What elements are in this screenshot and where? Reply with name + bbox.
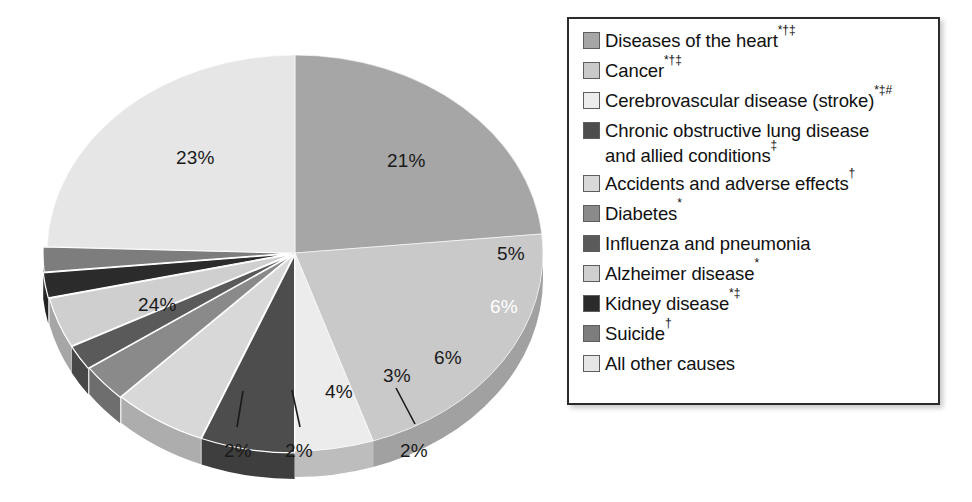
pie-chart-svg (0, 0, 570, 502)
legend-item-label: Influenza and pneumonia (605, 231, 810, 256)
legend-footnote-marker: ‡ (771, 138, 778, 152)
pie-slice-percent-label: 23% (176, 147, 215, 169)
legend-swatch-alzheimer (583, 265, 600, 282)
legend-swatch-kidney (583, 295, 600, 312)
legend-swatch-influenza (583, 235, 600, 252)
legend-item-label: Alzheimer disease* (605, 261, 759, 286)
legend-item-label: Kidney disease*‡ (605, 291, 740, 316)
legend-item-label: Accidents and adverse effects† (605, 171, 855, 196)
legend-items-list: Diseases of the heart*†‡Cancer*†‡Cerebro… (583, 28, 930, 381)
legend-item-label: Chronic obstructive lung diseaseand alli… (605, 118, 869, 168)
legend-item-label: Diabetes* (605, 201, 682, 226)
legend-footnote-marker: *†‡ (778, 23, 796, 37)
legend-swatch-suicide (583, 325, 600, 342)
pie-chart-area: 23%21%5%6%6%3%2%4%2%2%24% (0, 0, 570, 502)
pie-slice-percent-label: 21% (387, 150, 426, 172)
legend-swatch-accidents (583, 175, 600, 192)
pie-slice-percent-label: 2% (285, 440, 313, 462)
legend-footnote-marker: * (754, 256, 759, 270)
pie-slice-percent-label: 2% (400, 440, 428, 462)
pie-slice-percent-label: 6% (434, 347, 462, 369)
chart-legend: Diseases of the heart*†‡Cancer*†‡Cerebro… (567, 17, 940, 405)
legend-item-label-line2: and allied conditions‡ (605, 143, 869, 168)
legend-footnote-marker: † (665, 316, 672, 330)
legend-item[interactable]: All other causes (583, 351, 930, 378)
legend-item[interactable]: Diabetes* (583, 201, 930, 228)
legend-item[interactable]: Cerebrovascular disease (stroke)*‡# (583, 88, 930, 115)
legend-item[interactable]: Suicide† (583, 321, 930, 348)
legend-swatch-stroke (583, 92, 600, 109)
pie-slice-percent-label: 2% (224, 440, 252, 462)
pie-slice-percent-label: 4% (325, 381, 353, 403)
legend-swatch-other (583, 355, 600, 372)
legend-swatch-cancer (583, 62, 600, 79)
legend-footnote-marker: *‡ (729, 286, 740, 300)
pie-chart-figure: 23%21%5%6%6%3%2%4%2%2%24% Diseases of th… (0, 0, 972, 502)
pie-slice-percent-label: 3% (383, 365, 411, 387)
pie-slice-percent-label: 24% (138, 294, 177, 316)
legend-swatch-heart (583, 32, 600, 49)
pie-slice-all-other-causes[interactable] (47, 55, 295, 253)
pie-slice-percent-label: 5% (497, 243, 525, 265)
legend-footnote-marker: *†‡ (664, 53, 682, 67)
legend-item-label: Suicide† (605, 321, 672, 346)
legend-item-label: Cerebrovascular disease (stroke)*‡# (605, 88, 892, 113)
legend-footnote-marker: † (849, 166, 856, 180)
legend-swatch-diabetes (583, 205, 600, 222)
legend-item[interactable]: Diseases of the heart*†‡ (583, 28, 930, 55)
legend-item-label: Cancer*†‡ (605, 58, 682, 83)
pie-slice-percent-label: 6% (490, 296, 518, 318)
legend-item[interactable]: Chronic obstructive lung diseaseand alli… (583, 118, 930, 168)
legend-item[interactable]: Cancer*†‡ (583, 58, 930, 85)
legend-item[interactable]: Alzheimer disease* (583, 261, 930, 288)
legend-item-label: Diseases of the heart*†‡ (605, 28, 795, 53)
legend-item[interactable]: Kidney disease*‡ (583, 291, 930, 318)
legend-swatch-copd (583, 122, 600, 139)
legend-footnote-marker: *‡# (874, 83, 892, 97)
legend-item[interactable]: Influenza and pneumonia (583, 231, 930, 258)
legend-footnote-marker: * (677, 196, 682, 210)
legend-item-label: All other causes (605, 351, 735, 376)
legend-item[interactable]: Accidents and adverse effects† (583, 171, 930, 198)
